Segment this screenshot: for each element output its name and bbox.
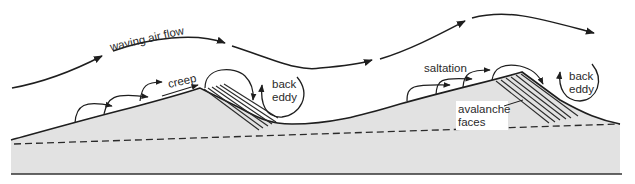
back-eddy-1-label-line1: back [272,78,297,90]
sand-dune-diagram: waving air flow creep saltation back edd… [0,0,635,184]
avalanche-label-line2: faces [458,116,486,128]
sand-body [11,72,622,174]
back-eddy-1-label-line2: eddy [272,91,297,103]
back-eddy-2-label-line1: back [569,70,594,82]
avalanche-label-line1: avalanche [458,103,510,115]
back-eddy-2-label-line2: eddy [569,83,594,95]
saltation-label: saltation [424,62,467,74]
air-flow-label: waving air flow [108,24,186,53]
creep-label: creep [167,72,198,90]
